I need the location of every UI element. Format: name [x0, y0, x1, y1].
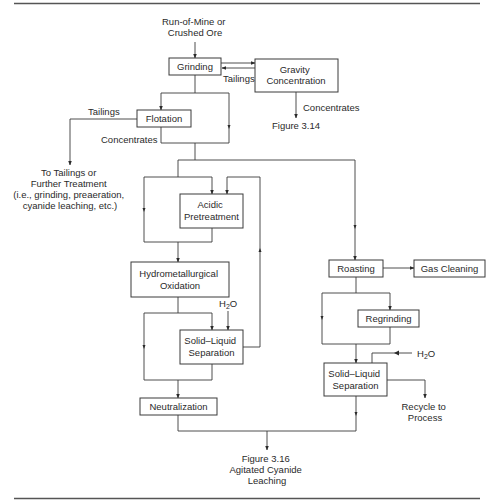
tailings-flotation-label: Tailings: [88, 106, 120, 117]
flowsheet-diagram: Run-of-Mine or Crushed Ore Grinding Tail…: [0, 0, 494, 504]
to-tailings-label: To Tailings or Further Treatment (i.e., …: [13, 167, 127, 211]
svg-text:Roasting: Roasting: [337, 263, 375, 274]
solid-liquid-separation-right-box: Solid–Liquid Separation: [324, 363, 387, 396]
svg-text:Solid–Liquid Separation: Solid–Liquid Separation: [184, 335, 238, 358]
roasting-box: Roasting: [329, 260, 383, 277]
svg-text:Solid–Liquid Separation: Solid–Liquid Separation: [328, 368, 382, 391]
h2o-left-label: H2O: [219, 298, 237, 310]
tailings-gravity-label: Tailings: [223, 73, 255, 84]
gas-cleaning-box: Gas Cleaning: [414, 260, 485, 277]
svg-text:Neutralization: Neutralization: [149, 401, 207, 412]
svg-text:Regrinding: Regrinding: [366, 313, 412, 324]
svg-text:Grinding: Grinding: [177, 61, 213, 72]
figure-314-label: Figure 3.14: [272, 120, 320, 131]
concentrates-gravity-label: Concentrates: [303, 102, 360, 113]
figure-316-label: Figure 3.16 Agitated Cyanide Leaching: [230, 453, 305, 486]
gravity-concentration-box: Gravity Concentration: [255, 59, 338, 92]
acidic-pretreatment-box: Acidic Pretreatment: [180, 194, 243, 228]
feed-label: Run-of-Mine or Crushed Ore: [162, 16, 228, 38]
hydrometallurgical-oxidation-box: Hydrometallurgical Oxidation: [131, 262, 229, 297]
flotation-box: Flotation: [137, 110, 191, 127]
recycle-label: Recycle to Process: [402, 401, 449, 423]
h2o-right-label: H2O: [417, 348, 435, 360]
svg-text:Flotation: Flotation: [146, 113, 182, 124]
regrinding-box: Regrinding: [358, 310, 419, 327]
grinding-box: Grinding: [169, 58, 221, 75]
concentrates-flotation-label: Concentrates: [101, 134, 158, 145]
svg-text:Gas Cleaning: Gas Cleaning: [421, 263, 479, 274]
solid-liquid-separation-left-box: Solid–Liquid Separation: [180, 330, 243, 364]
neutralization-box: Neutralization: [140, 398, 217, 415]
